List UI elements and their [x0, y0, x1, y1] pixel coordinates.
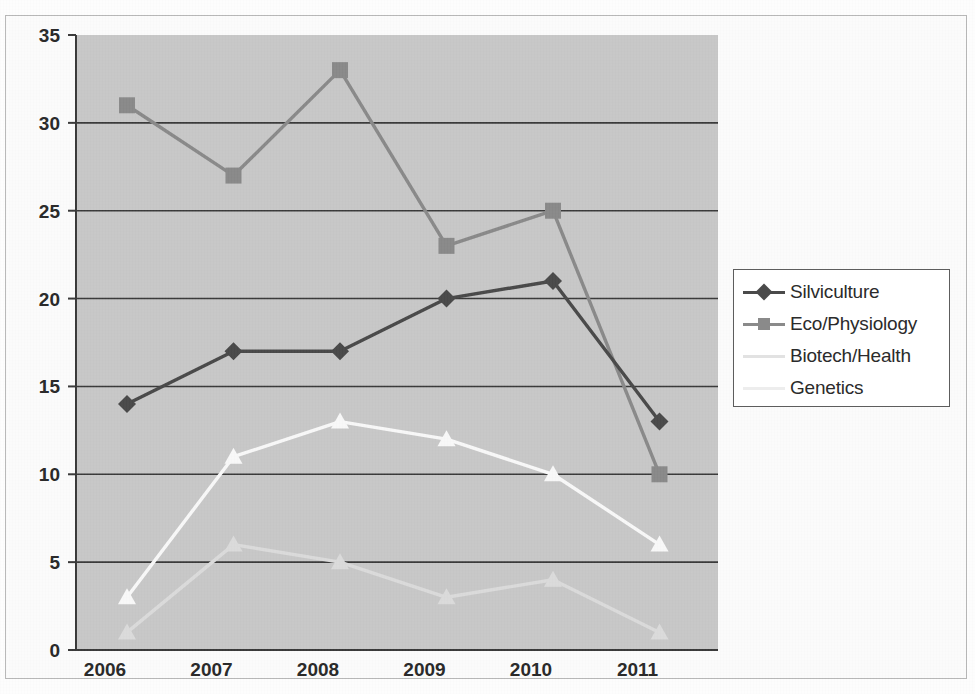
legend-item-genetics[interactable]: Genetics: [734, 372, 949, 404]
legend-swatch-icon: [741, 314, 787, 334]
legend-swatch-icon: [741, 282, 787, 302]
legend-item-label: Eco/Physiology: [790, 313, 917, 335]
y-axis-tick-labels: 05101520253035: [39, 25, 61, 661]
x-axis-tick-labels: 200620072008200920102011: [84, 659, 659, 680]
legend-item-eco-physiology[interactable]: Eco/Physiology: [734, 308, 949, 340]
data-point-2009-23: [439, 238, 455, 254]
x-tick-label-2007: 2007: [190, 659, 232, 680]
legend-item-label: Biotech/Health: [790, 345, 911, 367]
y-tick-label-25: 25: [39, 201, 61, 222]
y-tick-label-30: 30: [39, 113, 60, 134]
legend-marker-diamond-icon: [756, 284, 773, 301]
x-tick-label-2011: 2011: [617, 659, 659, 680]
legend-line: [743, 387, 785, 390]
y-axis-ticks: [68, 35, 76, 650]
data-point-2011-10: [652, 466, 668, 482]
legend-item-label: Silviculture: [790, 281, 879, 303]
x-tick-label-2009: 2009: [403, 659, 445, 680]
x-tick-label-2006: 2006: [84, 659, 126, 680]
x-tick-label-2010: 2010: [510, 659, 552, 680]
data-point-2007-27: [226, 168, 242, 184]
legend-item-label: Genetics: [790, 377, 863, 399]
legend-swatch-icon: [741, 346, 787, 366]
plot-area-background: [76, 35, 718, 650]
legend-item-biotech-health[interactable]: Biotech/Health: [734, 340, 949, 372]
chart-legend[interactable]: SilvicultureEco/PhysiologyBiotech/Health…: [733, 269, 950, 407]
data-point-2008-33: [332, 62, 348, 78]
y-tick-label-15: 15: [39, 376, 61, 397]
legend-marker-square-icon: [758, 318, 770, 330]
y-tick-label-10: 10: [39, 464, 60, 485]
legend-line: [743, 355, 785, 358]
data-point-2006-31: [119, 97, 135, 113]
x-tick-label-2008: 2008: [297, 659, 339, 680]
data-point-2010-25: [545, 203, 561, 219]
legend-item-silviculture[interactable]: Silviculture: [734, 276, 949, 308]
chart-container: 05101520253035 200620072008200920102011 …: [0, 0, 975, 694]
legend-swatch-icon: [741, 378, 787, 398]
y-tick-label-5: 5: [49, 552, 60, 573]
y-tick-label-0: 0: [49, 640, 60, 661]
y-tick-label-20: 20: [39, 289, 60, 310]
y-tick-label-35: 35: [39, 25, 61, 46]
